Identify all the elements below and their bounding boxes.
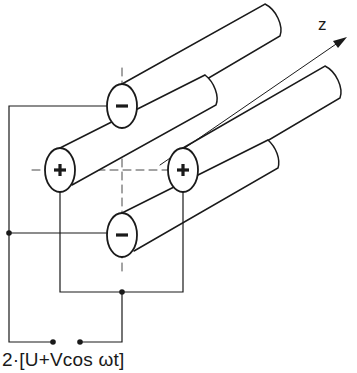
voltage-formula: 2·[U+Vcos ωt] [2,349,125,371]
quadrupole-diagram: z [0,0,357,373]
z-axis-label: z [318,15,327,34]
junction-dots [6,230,125,345]
